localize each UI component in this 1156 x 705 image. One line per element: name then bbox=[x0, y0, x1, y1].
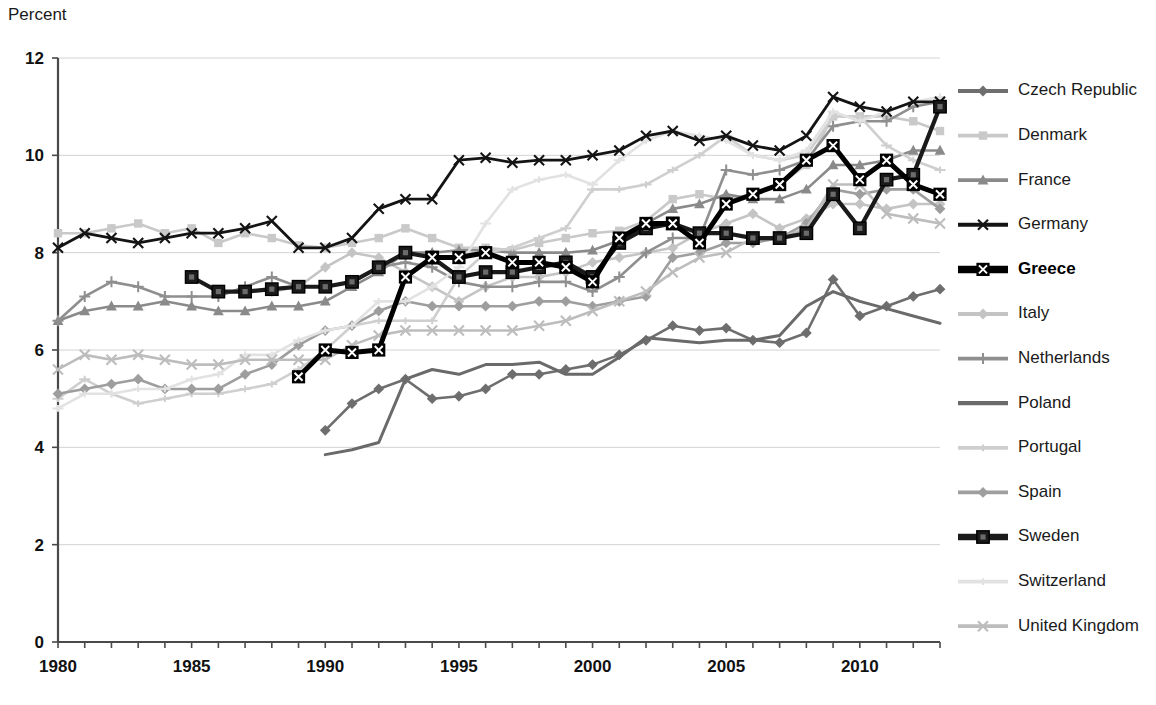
marker-square bbox=[588, 229, 596, 237]
legend-label: United Kingdom bbox=[1018, 616, 1139, 635]
marker-square-inner bbox=[242, 289, 247, 294]
x-tick-label: 1990 bbox=[306, 657, 344, 676]
legend-label: Netherlands bbox=[1018, 348, 1110, 367]
marker-square-inner bbox=[857, 226, 862, 231]
marker-square bbox=[428, 234, 436, 242]
y-tick-label: 8 bbox=[35, 244, 44, 263]
marker-square-inner bbox=[750, 235, 755, 240]
marker-square bbox=[936, 127, 944, 135]
marker-square-inner bbox=[697, 231, 702, 236]
x-tick-label: 2000 bbox=[574, 657, 612, 676]
y-axis-title: Percent bbox=[8, 5, 67, 24]
marker-square bbox=[909, 117, 917, 125]
marker-square bbox=[695, 190, 703, 198]
marker-square-inner bbox=[403, 250, 408, 255]
x-tick-label: 2005 bbox=[707, 657, 745, 676]
y-tick-label: 0 bbox=[35, 633, 44, 652]
marker-square bbox=[268, 234, 276, 242]
x-tick-label: 1985 bbox=[173, 657, 211, 676]
y-tick-label: 4 bbox=[35, 438, 45, 457]
x-tick-label: 1995 bbox=[440, 657, 478, 676]
marker-square bbox=[562, 234, 570, 242]
marker-square bbox=[214, 239, 222, 247]
legend-label: Italy bbox=[1018, 303, 1050, 322]
marker-square-inner bbox=[510, 270, 515, 275]
marker-square-inner bbox=[483, 270, 488, 275]
legend-label: Denmark bbox=[1018, 125, 1087, 144]
chart-container: 0246810121980198519901995200020052010 Pe… bbox=[0, 0, 1156, 705]
line-chart: 0246810121980198519901995200020052010 Pe… bbox=[0, 0, 1156, 705]
legend-label: Poland bbox=[1018, 393, 1071, 412]
marker-square-inner bbox=[830, 192, 835, 197]
x-tick-label: 1980 bbox=[39, 657, 77, 676]
marker-square-inner bbox=[884, 177, 889, 182]
marker-square bbox=[669, 195, 677, 203]
y-tick-label: 2 bbox=[35, 536, 44, 555]
marker-square-inner bbox=[349, 279, 354, 284]
legend-label: France bbox=[1018, 170, 1071, 189]
marker-square-inner bbox=[804, 231, 809, 236]
chart-background bbox=[0, 0, 1156, 705]
legend-label: Switzerland bbox=[1018, 571, 1106, 590]
legend-label: Sweden bbox=[1018, 526, 1079, 545]
legend-label: Germany bbox=[1018, 214, 1088, 233]
y-tick-label: 6 bbox=[35, 341, 44, 360]
marker-square bbox=[54, 229, 62, 237]
marker-square-inner bbox=[216, 289, 221, 294]
marker-square-inner bbox=[456, 274, 461, 279]
marker-square-inner bbox=[724, 231, 729, 236]
legend-label: Czech Republic bbox=[1018, 80, 1138, 99]
legend-label: Greece bbox=[1018, 259, 1076, 278]
legend-label: Portugal bbox=[1018, 437, 1081, 456]
marker-square-inner bbox=[777, 235, 782, 240]
x-tick-label: 2010 bbox=[841, 657, 879, 676]
marker-square-inner bbox=[937, 104, 942, 109]
marker-square bbox=[107, 224, 115, 232]
marker-square-inner bbox=[376, 265, 381, 270]
y-tick-label: 12 bbox=[25, 49, 44, 68]
legend-label: Spain bbox=[1018, 482, 1061, 501]
y-tick-label: 10 bbox=[25, 146, 44, 165]
marker-square bbox=[979, 131, 987, 139]
marker-square bbox=[401, 224, 409, 232]
marker-square-inner bbox=[323, 284, 328, 289]
marker-square-inner bbox=[911, 172, 916, 177]
marker-square bbox=[375, 234, 383, 242]
marker-square-inner bbox=[980, 534, 985, 539]
marker-square-inner bbox=[269, 287, 274, 292]
marker-square bbox=[134, 219, 142, 227]
marker-square-inner bbox=[189, 274, 194, 279]
marker-square-inner bbox=[296, 284, 301, 289]
